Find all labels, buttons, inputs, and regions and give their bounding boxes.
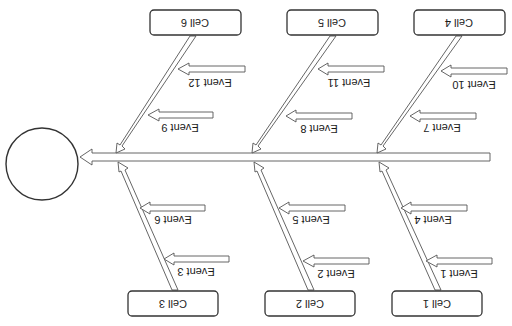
event11-arrow <box>318 63 384 75</box>
event5-arrow <box>279 202 345 214</box>
event5-label: Event 5 <box>292 214 329 226</box>
event9-label: Event 9 <box>161 122 198 134</box>
fishbone-diagram: Cell 6 Cell 5 Cell 4 Cell 3 Cell 2 Cell … <box>0 0 512 326</box>
event8-arrow <box>286 110 352 122</box>
event8-label: Event 8 <box>300 123 337 135</box>
event2-label: Event 2 <box>317 268 354 280</box>
cell1-label: Cell 1 <box>423 298 451 310</box>
cell2-box: Cell 2 <box>265 291 355 316</box>
event2-arrow <box>303 255 369 267</box>
event3-arrow <box>164 253 229 265</box>
cell6-label: Cell 6 <box>181 17 209 29</box>
event1-label: Event 1 <box>440 268 477 280</box>
event9-arrow <box>148 109 213 121</box>
event4-arrow <box>401 202 467 214</box>
event6-arrow <box>140 202 205 214</box>
cell3-box: Cell 3 <box>128 291 218 316</box>
event7-arrow <box>410 110 476 122</box>
bone-cell6 <box>116 36 196 153</box>
event4-label: Event 4 <box>414 214 451 226</box>
cell6-box: Cell 6 <box>150 10 241 35</box>
cell3-label: Cell 3 <box>159 298 187 310</box>
cell1-box: Cell 1 <box>392 291 482 316</box>
event6-label: Event 6 <box>154 214 191 226</box>
cell4-box: Cell 4 <box>414 10 505 35</box>
spine-arrow <box>80 149 490 165</box>
cell2-label: Cell 2 <box>296 298 324 310</box>
event10-label: Event 10 <box>452 79 495 91</box>
event12-label: Event 12 <box>188 77 231 89</box>
event12-arrow <box>178 63 245 75</box>
event11-label: Event 11 <box>328 77 371 89</box>
event3-label: Event 3 <box>177 266 214 278</box>
event7-label: Event 7 <box>423 122 460 134</box>
cell5-box: Cell 5 <box>287 10 378 35</box>
bone-cell4 <box>377 36 462 153</box>
fishbone-head-circle <box>6 128 78 200</box>
cell5-label: Cell 5 <box>318 17 346 29</box>
cell4-label: Cell 4 <box>445 17 473 29</box>
event10-arrow <box>441 65 507 77</box>
event1-arrow <box>426 255 492 267</box>
